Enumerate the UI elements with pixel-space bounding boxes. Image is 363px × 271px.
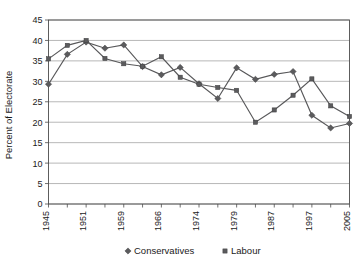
legend-marker-conservatives — [125, 248, 131, 254]
data-point-labour-2005 — [347, 114, 351, 118]
data-point-conservatives-1955 — [102, 45, 108, 51]
legend-label-conservatives: Conservatives — [134, 245, 194, 256]
x-tick-label-1987: 1987 — [266, 211, 276, 231]
x-tick-label-2005: 2005 — [342, 211, 352, 231]
line-chart: 051015202530354045 194519511959196619741… — [0, 0, 363, 271]
x-tick-label-1974: 1974 — [191, 211, 201, 231]
data-point-conservatives-1945 — [45, 81, 51, 87]
chart-legend: ConservativesLabour — [125, 245, 261, 256]
data-point-labour-1992 — [291, 93, 295, 97]
data-point-conservatives-2005 — [346, 120, 352, 126]
data-point-labour-1951 — [84, 38, 88, 42]
y-axis-title-text: Percent of Electorate — [3, 71, 14, 160]
data-point-labour-1997 — [310, 77, 314, 81]
y-tick-label-40: 40 — [32, 36, 42, 46]
y-axis-tick-labels: 051015202530354045 — [32, 15, 48, 209]
legend-label-labour: Labour — [231, 245, 261, 256]
data-point-labour-1974O — [216, 85, 220, 89]
x-tick-label-1997: 1997 — [304, 211, 314, 231]
data-point-labour-1950 — [65, 43, 69, 47]
data-point-labour-1970 — [178, 75, 182, 79]
data-point-conservatives-2001 — [328, 125, 334, 131]
y-tick-label-30: 30 — [32, 77, 42, 87]
data-point-labour-1966 — [159, 55, 163, 59]
data-point-labour-1964 — [140, 64, 144, 68]
y-tick-label-5: 5 — [37, 179, 42, 189]
data-point-conservatives-1979 — [234, 65, 240, 71]
x-tick-label-1951: 1951 — [78, 211, 88, 231]
y-tick-label-25: 25 — [32, 97, 42, 107]
data-point-conservatives-1987 — [271, 71, 277, 77]
x-tick-label-1966: 1966 — [153, 211, 163, 231]
legend-marker-labour — [223, 249, 227, 253]
data-point-conservatives-1997 — [309, 112, 315, 118]
y-tick-label-20: 20 — [32, 118, 42, 128]
data-point-conservatives-1992 — [290, 68, 296, 74]
y-tick-label-10: 10 — [32, 159, 42, 169]
chart-container: 051015202530354045 194519511959196619741… — [0, 0, 363, 271]
x-tick-label-1945: 1945 — [41, 211, 51, 231]
x-axis-tickmarks — [49, 204, 350, 208]
y-axis-title: Percent of Electorate — [3, 71, 14, 160]
data-point-labour-1959 — [122, 62, 126, 66]
y-tick-label-15: 15 — [32, 138, 42, 148]
y-tick-label-35: 35 — [32, 56, 42, 66]
x-axis-tick-labels: 194519511959196619741979198719972005 — [41, 211, 352, 231]
y-tick-label-0: 0 — [37, 199, 42, 209]
x-tick-label-1979: 1979 — [229, 211, 239, 231]
data-point-labour-2001 — [329, 104, 333, 108]
data-series — [45, 38, 352, 131]
y-tick-label-45: 45 — [32, 15, 42, 25]
data-point-conservatives-1950 — [64, 51, 70, 57]
data-point-labour-1955 — [103, 56, 107, 60]
x-tick-label-1959: 1959 — [116, 211, 126, 231]
data-point-labour-1983 — [253, 120, 257, 124]
data-point-labour-1987 — [272, 108, 276, 112]
data-point-conservatives-1966 — [158, 72, 164, 78]
data-point-labour-1945 — [46, 57, 50, 61]
data-point-labour-1979 — [235, 88, 239, 92]
data-point-labour-1974F — [197, 82, 201, 86]
